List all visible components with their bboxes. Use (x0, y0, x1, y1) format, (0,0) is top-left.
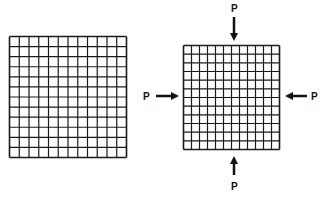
arrow-left-icon (285, 92, 293, 100)
load-top-label: P (231, 3, 238, 14)
compressed-mesh (184, 46, 280, 150)
arrow-right-icon (171, 92, 179, 100)
arrow-up-icon (230, 156, 238, 164)
arrow-down-icon (230, 33, 238, 41)
load-left-label: P (143, 91, 150, 102)
load-top: P (230, 3, 238, 41)
diagram-canvas: P P P P (0, 0, 323, 197)
load-left: P (143, 91, 179, 102)
undeformed-mesh (10, 37, 127, 158)
load-bottom-label: P (231, 181, 238, 192)
load-right-label: P (311, 91, 318, 102)
load-right: P (285, 91, 318, 102)
load-bottom: P (230, 156, 238, 192)
